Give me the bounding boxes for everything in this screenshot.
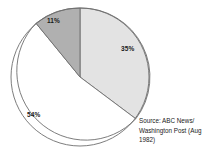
source-line-3: 1982) bbox=[139, 135, 217, 145]
pie-label-11: 11% bbox=[47, 17, 60, 24]
source-attribution: Source: ABC News/ Washington Post (Aug 1… bbox=[139, 116, 217, 145]
source-line-1: Source: ABC News/ bbox=[139, 116, 217, 126]
source-line-2: Washington Post (Aug bbox=[139, 126, 217, 136]
pie-chart: 11% 35% 54% Source: ABC News/ Washington… bbox=[0, 0, 217, 154]
pie-label-54: 54% bbox=[27, 111, 40, 118]
pie-label-35: 35% bbox=[121, 45, 134, 52]
